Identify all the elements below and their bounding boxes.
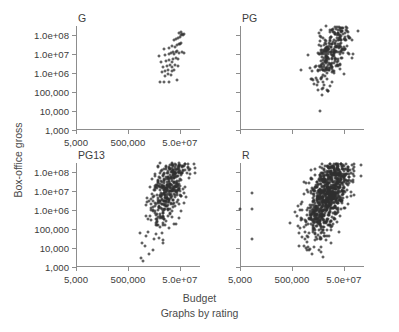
- data-point: [304, 230, 307, 233]
- data-point: [321, 162, 324, 165]
- data-point: [325, 56, 328, 59]
- data-point: [319, 60, 322, 63]
- data-point: [310, 212, 313, 215]
- data-point: [140, 256, 143, 259]
- data-point: [163, 192, 166, 195]
- data-point: [297, 245, 300, 248]
- data-point: [319, 251, 322, 254]
- data-point: [327, 182, 330, 185]
- data-point: [321, 94, 324, 97]
- panel-r: R5,000500,0005.0e+07: [240, 163, 364, 267]
- data-point: [250, 191, 253, 194]
- data-point: [151, 178, 154, 181]
- data-point: [336, 208, 339, 211]
- data-point: [157, 209, 160, 212]
- data-point: [303, 245, 306, 248]
- data-point: [299, 68, 302, 71]
- data-point: [335, 45, 338, 48]
- data-point: [154, 203, 157, 206]
- data-point: [329, 63, 332, 66]
- y-tick-label: 100,000: [34, 87, 69, 98]
- panel-pg13: PG131.0e+081.0e+071.0e+06100,00010,0001,…: [76, 163, 200, 267]
- data-point: [319, 28, 322, 31]
- data-point: [325, 78, 328, 81]
- data-point: [184, 185, 187, 188]
- data-point: [314, 184, 317, 187]
- data-point: [332, 180, 335, 183]
- data-point: [347, 166, 350, 169]
- data-point: [352, 170, 355, 173]
- data-point: [153, 189, 156, 192]
- data-point: [331, 28, 334, 31]
- data-point: [145, 214, 148, 217]
- data-point: [310, 223, 313, 226]
- data-point: [319, 45, 322, 48]
- data-point: [317, 89, 320, 92]
- data-point: [176, 198, 179, 201]
- data-point: [251, 237, 254, 240]
- data-point: [169, 171, 172, 174]
- data-point: [172, 223, 175, 226]
- x-tick: [344, 267, 345, 271]
- data-point: [341, 29, 344, 32]
- chart-subtitle: Graphs by rating: [0, 307, 399, 319]
- data-point: [164, 219, 167, 222]
- data-point: [324, 165, 327, 168]
- data-point: [171, 216, 174, 219]
- data-point: [168, 180, 171, 183]
- data-point: [315, 215, 318, 218]
- data-point: [341, 52, 344, 55]
- data-point: [324, 74, 327, 77]
- y-tick-label: 10,000: [40, 106, 69, 117]
- data-point: [182, 32, 185, 35]
- data-point: [313, 221, 316, 224]
- data-point: [336, 195, 339, 198]
- x-tick: [292, 267, 293, 271]
- data-point: [310, 169, 313, 172]
- data-point: [173, 177, 176, 180]
- data-point: [352, 52, 355, 55]
- data-point: [149, 219, 152, 222]
- data-point: [181, 187, 184, 190]
- data-point: [311, 70, 314, 73]
- data-point: [173, 68, 176, 71]
- data-point: [150, 202, 153, 205]
- data-point: [331, 42, 334, 45]
- data-point: [347, 169, 350, 172]
- data-point: [336, 163, 339, 166]
- data-point: [347, 35, 350, 38]
- data-point: [340, 176, 343, 179]
- data-point: [162, 214, 165, 217]
- data-point: [356, 30, 359, 33]
- data-point: [338, 181, 341, 184]
- data-point: [340, 207, 343, 210]
- data-point: [300, 203, 303, 206]
- y-tick-label: 1,000: [45, 262, 69, 273]
- data-point: [177, 188, 180, 191]
- data-point: [154, 213, 157, 216]
- data-point: [342, 165, 345, 168]
- panel-g: G1.0e+081.0e+071.0e+06100,00010,0001,000…: [76, 26, 200, 130]
- data-point: [311, 187, 314, 190]
- data-point: [166, 214, 169, 217]
- y-tick-label: 100,000: [34, 224, 69, 235]
- data-point: [183, 162, 186, 165]
- data-point: [173, 173, 176, 176]
- data-point: [343, 175, 346, 178]
- panel-title-g: G: [78, 12, 86, 24]
- data-point: [165, 205, 168, 208]
- data-point: [337, 42, 340, 45]
- x-tick: [128, 130, 129, 134]
- data-point: [336, 201, 339, 204]
- x-tick-label: 5.0e+07: [162, 137, 197, 148]
- x-tick-label: 5,000: [64, 274, 88, 285]
- data-point: [333, 195, 336, 198]
- data-point: [332, 206, 335, 209]
- data-point: [353, 174, 356, 177]
- data-point: [164, 54, 167, 57]
- data-point: [329, 208, 332, 211]
- data-point: [360, 174, 363, 177]
- data-point: [155, 217, 158, 220]
- data-point: [322, 226, 325, 229]
- data-point: [343, 170, 346, 173]
